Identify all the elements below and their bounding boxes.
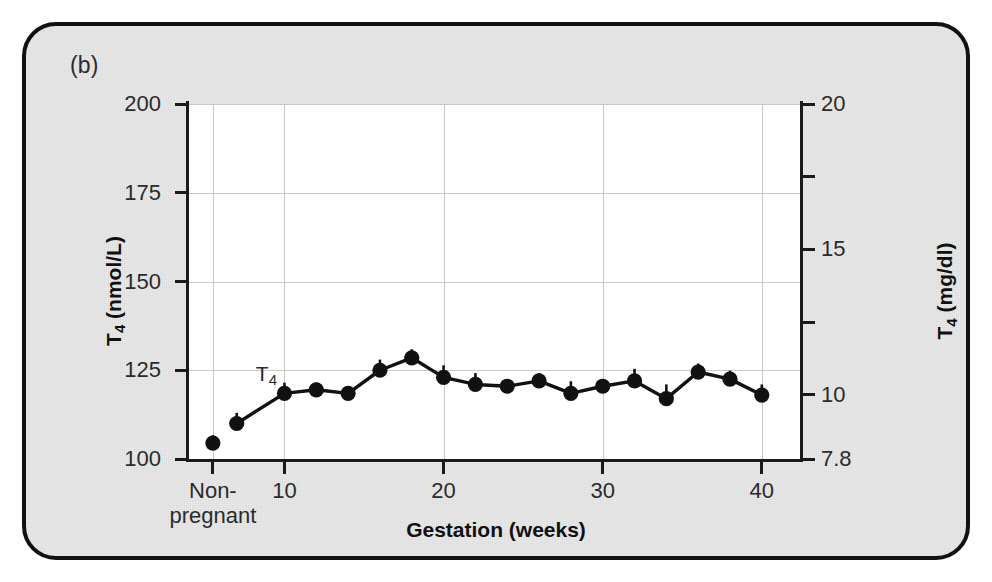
data-point bbox=[563, 386, 578, 401]
x-tick-label: 30 bbox=[590, 479, 614, 504]
y-axis-title-right-sub: 4 bbox=[943, 318, 960, 326]
x-tick-label: 40 bbox=[750, 479, 774, 504]
data-point bbox=[341, 386, 356, 401]
y-tick-left bbox=[175, 103, 187, 106]
y-axis-title-right-rest: (mg/dl) bbox=[933, 242, 956, 318]
y-tick-label-right: 20 bbox=[821, 91, 881, 117]
x-tick bbox=[601, 462, 604, 474]
data-point bbox=[500, 379, 515, 394]
y-tick-right bbox=[803, 393, 815, 396]
data-point bbox=[404, 350, 419, 365]
data-point bbox=[436, 370, 451, 385]
plot-area: 100125150175200 7.8101520 Non-pregnant10… bbox=[189, 104, 800, 459]
series-annotation-t4: T4 bbox=[256, 362, 277, 388]
x-tick-label: 20 bbox=[431, 479, 455, 504]
x-tick-label-non-pregnant-line2: pregnant bbox=[169, 504, 256, 529]
y-tick-label-left: 150 bbox=[101, 269, 161, 295]
y-axis-right-line bbox=[800, 101, 803, 462]
x-tick bbox=[442, 462, 445, 474]
data-point bbox=[659, 391, 674, 406]
y-tick-left bbox=[175, 369, 187, 372]
data-series-svg bbox=[189, 104, 800, 459]
x-tick bbox=[211, 462, 214, 474]
data-point bbox=[627, 373, 642, 388]
y-tick-right bbox=[803, 321, 815, 324]
x-tick-label: 10 bbox=[272, 479, 296, 504]
y-tick-label-right: 7.8 bbox=[821, 446, 881, 472]
series-annotation-base: T bbox=[256, 362, 269, 385]
series-annotation-sub: 4 bbox=[269, 371, 277, 388]
x-tick-label-non-pregnant-line1: Non- bbox=[169, 479, 256, 504]
y-tick-label-left: 200 bbox=[101, 91, 161, 117]
y-tick-left bbox=[175, 458, 187, 461]
y-tick-label-left: 100 bbox=[101, 446, 161, 472]
data-point bbox=[277, 386, 292, 401]
data-point-non-pregnant bbox=[205, 435, 220, 450]
data-point bbox=[691, 364, 706, 379]
x-axis-title: Gestation (weeks) bbox=[26, 518, 966, 542]
data-point bbox=[595, 379, 610, 394]
x-tick bbox=[283, 462, 286, 474]
y-tick-label-left: 125 bbox=[101, 357, 161, 383]
y-tick-label-left: 175 bbox=[101, 180, 161, 206]
data-point bbox=[754, 388, 769, 403]
y-axis-title-left-sub: 4 bbox=[111, 325, 128, 333]
y-tick-label-right: 10 bbox=[821, 382, 881, 408]
y-tick-right bbox=[803, 103, 815, 106]
y-tick-right bbox=[803, 248, 815, 251]
panel-label: (b) bbox=[70, 52, 99, 79]
data-point bbox=[531, 373, 546, 388]
x-axis-line bbox=[186, 459, 803, 462]
data-point bbox=[309, 382, 324, 397]
x-tick-label-non-pregnant: Non-pregnant bbox=[169, 479, 256, 528]
data-point bbox=[372, 363, 387, 378]
data-point bbox=[722, 372, 737, 387]
y-axis-title-left-base: T bbox=[102, 333, 125, 346]
y-tick-left bbox=[175, 280, 187, 283]
data-point bbox=[468, 377, 483, 392]
x-tick bbox=[760, 462, 763, 474]
y-axis-title-right-base: T bbox=[933, 327, 956, 340]
y-axis-title-right: T4 (mg/dl) bbox=[933, 242, 959, 339]
data-point bbox=[229, 416, 244, 431]
y-tick-right bbox=[803, 458, 815, 461]
figure-panel: (b) T4 (nmol/L) T4 (mg/dl) Gestation (we… bbox=[22, 22, 970, 560]
y-tick-left bbox=[175, 191, 187, 194]
y-tick-label-right: 15 bbox=[821, 236, 881, 262]
y-tick-right bbox=[803, 175, 815, 178]
